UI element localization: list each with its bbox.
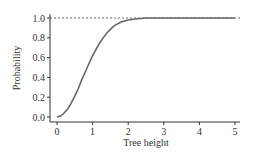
y-tick-label: 0.2 xyxy=(33,92,46,103)
y-axis-label: Probability xyxy=(11,46,22,90)
y-tick-label: 0.6 xyxy=(33,52,46,63)
y-tick-label: 0.8 xyxy=(33,32,46,43)
x-tick-label: 1 xyxy=(90,126,95,137)
x-axis-label: Tree height xyxy=(123,137,169,148)
y-tick-label: 1.0 xyxy=(33,13,46,24)
y-ticks: 0.00.20.40.60.81.0 xyxy=(33,13,51,123)
x-tick-label: 3 xyxy=(161,126,166,137)
x-tick-label: 5 xyxy=(233,126,238,137)
x-tick-label: 4 xyxy=(197,126,202,137)
x-ticks: 012345 xyxy=(55,122,238,137)
x-tick-label: 0 xyxy=(55,126,60,137)
x-tick-label: 2 xyxy=(126,126,131,137)
chart: 0.00.20.40.60.81.0 012345 Tree height Pr… xyxy=(0,0,253,158)
y-tick-label: 0.4 xyxy=(33,72,46,83)
y-tick-label: 0.0 xyxy=(33,112,46,123)
probability-curve xyxy=(57,18,235,117)
